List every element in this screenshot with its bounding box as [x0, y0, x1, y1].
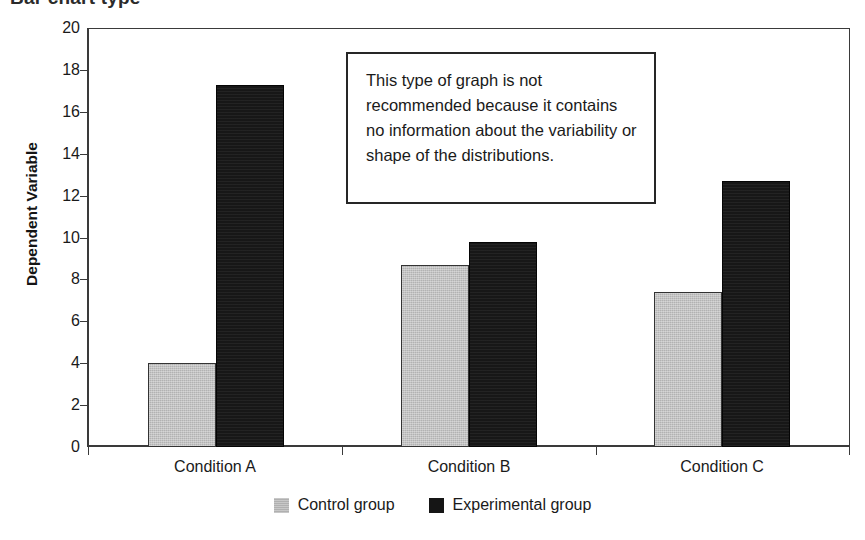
legend-label: Control group [298, 496, 395, 514]
bar-condition-b-control-group [401, 265, 469, 447]
bar-condition-a-experimental-group [216, 85, 284, 447]
x-axis-category-label: Condition C [680, 458, 764, 476]
y-axis-tick-group: 20 18 16 14 12 10 8 6 4 2 0 [0, 28, 80, 447]
x-axis-tick-mark [88, 447, 89, 455]
y-axis-tick-mark [80, 70, 87, 71]
y-axis-tick-label: 2 [40, 396, 80, 414]
bar-condition-a-control-group [148, 363, 216, 447]
x-axis-category-label: Condition A [174, 458, 256, 476]
x-axis-tick-mark [342, 447, 343, 455]
bar-condition-b-experimental-group [469, 242, 537, 447]
y-axis-tick-label: 14 [40, 145, 80, 163]
y-axis-tick-mark [80, 321, 87, 322]
y-axis-tick-mark [80, 196, 87, 197]
y-axis-tick-label: 16 [40, 103, 80, 121]
y-axis-tick-label: 4 [40, 354, 80, 372]
experimental-swatch-icon [429, 498, 444, 513]
y-axis-tick-mark [80, 363, 87, 364]
legend-item-control: Control group [274, 496, 395, 514]
legend-item-experimental: Experimental group [429, 496, 592, 514]
bar-condition-c-experimental-group [722, 181, 790, 447]
bar-chart-figure: Bar chart type Dependent Variable 20 18 … [0, 0, 865, 540]
annotation-note-box: This type of graph is not recommended be… [346, 52, 656, 204]
y-axis-tick-mark [80, 238, 87, 239]
y-axis-tick-label: 12 [40, 187, 80, 205]
x-axis-category-label: Condition B [428, 458, 511, 476]
y-axis-tick-mark [80, 405, 87, 406]
y-axis-tick-label: 20 [40, 19, 80, 37]
y-axis-tick-label: 6 [40, 312, 80, 330]
x-axis-tick-mark [849, 447, 850, 455]
y-axis-tick-mark [80, 279, 87, 280]
y-axis-tick-label: 8 [40, 270, 80, 288]
legend-label: Experimental group [453, 496, 592, 514]
x-axis-tick-mark [596, 447, 597, 455]
y-axis-tick-mark [80, 112, 87, 113]
y-axis-tick-label: 10 [40, 229, 80, 247]
chart-title: Bar chart type [10, 0, 141, 9]
chart-legend: Control group Experimental group [0, 496, 865, 514]
y-axis-tick-mark [80, 154, 87, 155]
y-axis-tick-label: 0 [40, 438, 80, 456]
control-swatch-icon [274, 498, 289, 513]
bar-condition-c-control-group [654, 292, 722, 447]
y-axis-tick-label: 18 [40, 61, 80, 79]
